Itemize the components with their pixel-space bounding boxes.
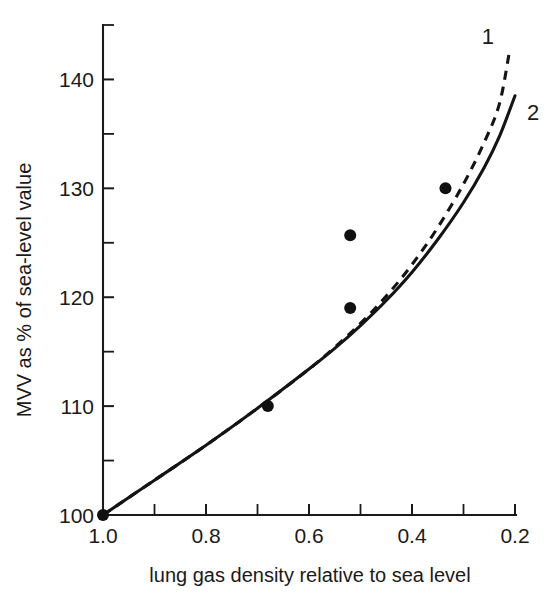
x-axis-ticks [103, 504, 515, 515]
data-point [97, 509, 109, 521]
chart-svg: 100110120130140 1.00.80.60.40.2 1 2 lung… [0, 0, 550, 594]
y-tick-label: 130 [59, 177, 94, 200]
curve-series-1 [103, 49, 510, 515]
y-axis-tick-labels: 100110120130140 [59, 68, 94, 527]
series-1-label: 1 [482, 24, 494, 49]
axes-group [103, 25, 516, 515]
x-tick-label: 0.6 [294, 524, 323, 547]
data-point [439, 182, 451, 194]
chart-figure: 100110120130140 1.00.80.60.40.2 1 2 lung… [0, 0, 550, 594]
x-tick-label: 0.4 [397, 524, 427, 547]
data-point [344, 302, 356, 314]
curve-series-2 [103, 96, 515, 515]
y-axis-ticks [103, 25, 114, 515]
y-tick-label: 140 [59, 68, 94, 91]
y-axis-title: MVV as % of sea-level value [13, 163, 35, 418]
data-points-group [97, 182, 451, 521]
x-axis-title: lung gas density relative to sea level [149, 564, 470, 586]
y-tick-label: 120 [59, 286, 94, 309]
series-2-label: 2 [527, 100, 539, 125]
data-point [344, 229, 356, 241]
data-point [262, 400, 274, 412]
x-tick-label: 1.0 [88, 524, 117, 547]
x-tick-label: 0.2 [500, 524, 529, 547]
y-tick-label: 110 [61, 395, 94, 418]
x-tick-label: 0.8 [191, 524, 220, 547]
x-axis-tick-labels: 1.00.80.60.40.2 [88, 524, 529, 547]
